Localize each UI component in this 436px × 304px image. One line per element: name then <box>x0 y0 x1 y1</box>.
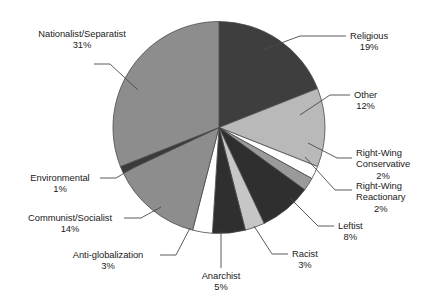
slice-label-environmental: Environmental 1% <box>22 172 98 195</box>
slice-label-rw-reactionary-pct: 2% <box>356 203 405 214</box>
slice-label-anarchist-pct: 5% <box>181 281 261 292</box>
slice-label-rw-conservative: Right-Wing Conservative 2% <box>356 147 410 181</box>
slice-label-communist-pct: 14% <box>18 223 122 234</box>
slice-label-antiglobalization-name: Anti-globalization <box>58 249 158 260</box>
slice-label-rw-conservative-name2: Conservative <box>356 158 410 169</box>
leader-line-antiglobalization <box>160 228 190 255</box>
slice-label-leftist-name: Leftist <box>338 220 363 231</box>
slice-label-rw-conservative-name1: Right-Wing <box>356 147 410 158</box>
slice-label-rw-reactionary: Right-Wing Reactionary 2% <box>356 180 405 214</box>
slice-label-nationalist-pct: 31% <box>18 39 146 50</box>
slice-label-religious-pct: 19% <box>350 41 388 52</box>
slice-label-rw-reactionary-name2: Reactionary <box>356 191 405 202</box>
slice-label-antiglobalization-pct: 3% <box>58 260 158 271</box>
pie-chart: Religious 19% Other 12% Right-Wing Conse… <box>0 0 436 304</box>
slice-label-rw-reactionary-name1: Right-Wing <box>356 180 405 191</box>
slice-label-anarchist-name: Anarchist <box>181 270 261 281</box>
slice-label-religious: Religious 19% <box>350 30 388 53</box>
slice-label-nationalist-name: Nationalist/Separatist <box>18 28 146 39</box>
slice-label-environmental-name: Environmental <box>22 172 98 183</box>
slice-label-leftist-pct: 8% <box>338 231 363 242</box>
leader-line-racist <box>254 226 288 254</box>
slice-label-religious-name: Religious <box>350 30 388 41</box>
slice-label-environmental-pct: 1% <box>22 183 98 194</box>
slice-label-other: Other 12% <box>354 89 377 112</box>
slice-label-nationalist: Nationalist/Separatist 31% <box>18 28 146 51</box>
slice-label-racist: Racist 3% <box>292 248 318 271</box>
slice-label-communist: Communist/Socialist 14% <box>18 212 122 235</box>
slice-label-leftist: Leftist 8% <box>338 220 363 243</box>
slice-label-racist-pct: 3% <box>292 259 318 270</box>
slice-label-other-pct: 12% <box>354 100 377 111</box>
slice-label-anarchist: Anarchist 5% <box>181 270 261 293</box>
leader-line-leftist <box>290 198 334 226</box>
slice-label-communist-name: Communist/Socialist <box>18 212 122 223</box>
slice-label-antiglobalization: Anti-globalization 3% <box>58 249 158 272</box>
slice-label-other-name: Other <box>354 89 377 100</box>
slice-label-racist-name: Racist <box>292 248 318 259</box>
